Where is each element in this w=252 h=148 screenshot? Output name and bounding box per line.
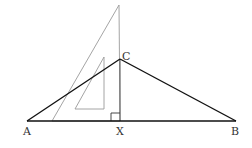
- right-angle-marker: [111, 113, 120, 121]
- label-a: A: [22, 125, 32, 138]
- label-c: C: [122, 50, 130, 63]
- side-cb: [120, 59, 236, 121]
- label-x: X: [116, 125, 124, 138]
- set-square-cutout: [75, 57, 104, 109]
- label-b: B: [231, 125, 239, 138]
- triangle-abc: [27, 59, 236, 121]
- geometry-diagram: A X B C: [0, 0, 252, 148]
- side-ac: [27, 59, 120, 121]
- set-square-outer: [52, 5, 120, 121]
- set-square: [52, 5, 120, 121]
